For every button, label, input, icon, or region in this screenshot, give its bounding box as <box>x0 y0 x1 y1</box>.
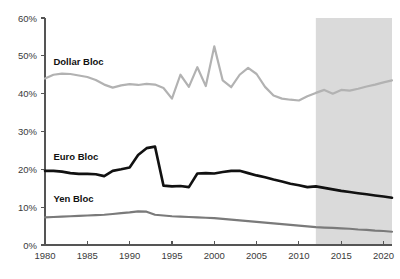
y-tick-label: 50% <box>18 50 38 61</box>
series-label-yen-bloc: Yen Bloc <box>53 193 93 204</box>
y-axis-ticks: 0%10%20%30%40%50%60% <box>18 13 45 251</box>
x-tick-label: 1985 <box>77 250 98 261</box>
series-label-dollar-bloc: Dollar Bloc <box>53 56 103 67</box>
x-tick-label: 1990 <box>119 250 140 261</box>
line-chart: 0%10%20%30%40%50%60% 1980198519901995200… <box>0 0 400 279</box>
x-tick-label: 2015 <box>331 250 352 261</box>
forecast-band-rect <box>316 18 392 245</box>
x-tick-label: 2020 <box>373 250 394 261</box>
y-tick-label: 60% <box>18 13 38 24</box>
chart-container: 0%10%20%30%40%50%60% 1980198519901995200… <box>0 0 400 279</box>
x-tick-label: 2010 <box>288 250 309 261</box>
y-tick-label: 40% <box>18 88 38 99</box>
x-tick-label: 1980 <box>34 250 55 261</box>
x-tick-label: 2000 <box>204 250 225 261</box>
forecast-shaded-region <box>316 18 392 245</box>
x-tick-label: 1995 <box>161 250 182 261</box>
y-tick-label: 20% <box>18 164 38 175</box>
series-inline-labels: Dollar BlocEuro BlocYen Bloc <box>53 56 103 204</box>
y-tick-label: 10% <box>18 202 38 213</box>
series-label-euro-bloc: Euro Bloc <box>53 151 98 162</box>
x-tick-label: 2005 <box>246 250 267 261</box>
y-tick-label: 30% <box>18 126 38 137</box>
y-tick-label: 0% <box>23 240 37 251</box>
